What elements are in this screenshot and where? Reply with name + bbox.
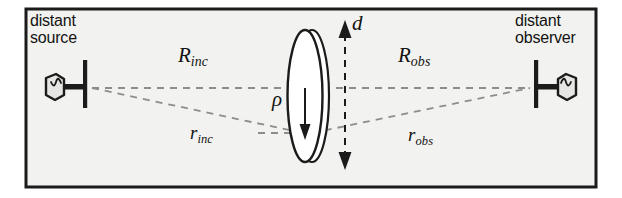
distant-observer-line2: observer xyxy=(515,29,576,46)
distant-source-label: distant source xyxy=(30,12,77,47)
symbol-R-inc: Rinc xyxy=(178,44,208,70)
distant-observer-line1: distant xyxy=(515,12,576,29)
symbol-R-inc-base: R xyxy=(178,43,191,67)
distant-observer-label: distant observer xyxy=(515,12,576,47)
symbol-R-obs-sub: obs xyxy=(411,54,431,69)
symbol-R-obs: Robs xyxy=(398,44,430,70)
symbol-r-obs: robs xyxy=(408,125,433,149)
symbol-r-inc: rinc xyxy=(190,123,213,147)
symbol-r-obs-sub: obs xyxy=(415,134,433,148)
symbol-r-inc-sub: inc xyxy=(197,132,213,146)
symbol-rho: ρ xyxy=(272,88,282,111)
symbol-R-obs-base: R xyxy=(398,43,411,67)
symbol-d: d xyxy=(352,12,363,35)
scattering-geometry-figure: distant source distant observer Rinc Rob… xyxy=(0,0,622,198)
scatterer-disk xyxy=(288,30,330,162)
distant-source-line2: source xyxy=(30,29,77,46)
distant-source-line1: distant xyxy=(30,12,77,29)
symbol-R-inc-sub: inc xyxy=(191,54,208,69)
